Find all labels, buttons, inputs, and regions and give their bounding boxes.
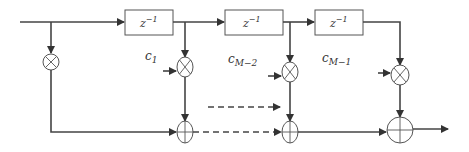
adder-node-1 [177, 121, 193, 143]
adder-node-m2 [282, 121, 298, 143]
fir-filter-diagram: z−1 z−1 z−1 c1 cM−2 [0, 0, 469, 152]
coefficient-label-c1: c1 [145, 49, 157, 65]
coefficient-label-cM-2: cM−2 [228, 52, 257, 68]
multiplier-node-0 [43, 54, 59, 70]
delay-block-3: z−1 [315, 10, 363, 35]
delay-block-1: z−1 [125, 10, 173, 35]
multiplier-node-m1 [391, 65, 409, 85]
coefficient-label-cM-1: cM−1 [322, 51, 351, 67]
delay-block-2: z−1 [225, 10, 283, 35]
multiplier-node-1 [177, 57, 193, 77]
multiplier-node-m2 [282, 62, 298, 82]
adder-node-output [387, 117, 413, 143]
